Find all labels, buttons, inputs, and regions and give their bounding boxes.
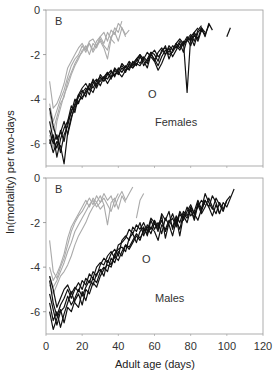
panel-females: 0-2-4-6 B O Females — [30, 4, 263, 168]
long-lived-series-line — [227, 28, 231, 37]
x-axis-ticks: 020406080100120 — [43, 334, 272, 352]
long-lived-series-line — [50, 196, 220, 327]
y-axis-ticks: 0-2-4-6 — [30, 172, 46, 318]
x-tick-label: 40 — [112, 340, 124, 352]
x-tick-label: 120 — [254, 340, 272, 352]
y-tick-label: -2 — [30, 49, 40, 61]
y-tick-label: -4 — [30, 261, 40, 273]
panel-label: B — [55, 183, 62, 195]
long-lived-series-line — [50, 189, 235, 307]
x-axis-title: Adult age (days) — [115, 358, 195, 370]
y-tick-label: -6 — [30, 306, 40, 318]
group-marker: O — [148, 88, 157, 100]
group-marker: O — [142, 253, 151, 265]
panel-label: B — [55, 15, 62, 27]
y-tick-label: -4 — [30, 93, 40, 105]
x-tick-label: 0 — [43, 340, 49, 352]
group-label: Females — [155, 116, 198, 128]
panel-males: 0-2-4-6 020406080100120 B O Males — [30, 172, 272, 352]
panel-frame — [46, 178, 263, 334]
y-tick-label: -2 — [30, 217, 40, 229]
y-tick-label: -6 — [30, 138, 40, 150]
y-axis-ticks: 0-2-4-6 — [30, 4, 46, 150]
y-tick-label: 0 — [34, 4, 40, 16]
mortality-chart: ln(mortality) per two-days Adult age (da… — [0, 0, 277, 376]
x-tick-label: 60 — [148, 340, 160, 352]
x-tick-label: 80 — [185, 340, 197, 352]
x-tick-label: 100 — [218, 340, 236, 352]
x-tick-label: 20 — [76, 340, 88, 352]
group-label: Males — [155, 292, 185, 304]
y-tick-label: 0 — [34, 172, 40, 184]
short-lived-series-line — [136, 194, 143, 219]
series-group — [50, 21, 231, 164]
y-axis-title: ln(mortality) per two-days — [4, 110, 16, 234]
